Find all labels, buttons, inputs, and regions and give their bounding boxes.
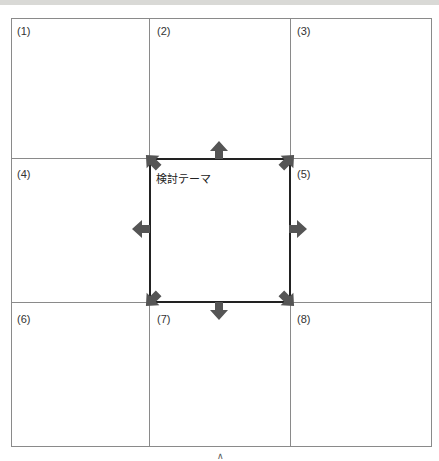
arrows-layer xyxy=(0,0,439,461)
arrow-right-icon xyxy=(289,220,307,238)
arrow-up-left-icon xyxy=(140,149,165,174)
arrow-down-left-icon xyxy=(140,287,165,312)
footer-mark: ∧ xyxy=(217,451,224,461)
arrow-left-icon xyxy=(132,220,150,238)
arrow-down-right-icon xyxy=(275,287,300,312)
arrow-down-icon xyxy=(210,302,228,320)
arrow-up-right-icon xyxy=(275,149,300,174)
arrow-up-icon xyxy=(210,141,228,159)
